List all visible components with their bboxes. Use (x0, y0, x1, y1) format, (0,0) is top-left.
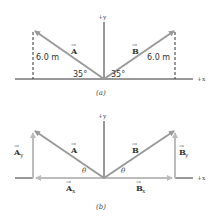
caption-a: (a) (96, 89, 106, 97)
svg-text:x: x (72, 187, 76, 194)
component-ax-label: → A x (65, 178, 76, 194)
x-axis-label-a: +x (197, 75, 206, 82)
vector-diagram: +y +x A → B → 6.0 m 6.0 m 35° 35° (a) +y… (0, 0, 218, 221)
svg-text:x: x (142, 187, 146, 194)
vector-b-overarrow: → (132, 41, 137, 48)
component-by-label: → B y (179, 142, 189, 159)
vector-a-overarrow: → (71, 41, 76, 48)
magnitude-a: 6.0 m (36, 53, 59, 62)
vector-a-arrow-b (35, 131, 104, 178)
panel-a: +y +x A → B → 6.0 m 6.0 m 35° 35° (a) (15, 13, 206, 97)
angle-theta-a: θ (82, 167, 87, 175)
y-axis-label-b: +y (98, 112, 107, 120)
y-axis-label-a: +y (98, 13, 107, 21)
caption-b: (b) (96, 203, 106, 211)
panel-b: +y +x A → B → → A y → B y → A x → B x (13, 112, 206, 211)
x-axis-label-b: +x (197, 174, 206, 181)
angle-a: 35° (73, 70, 87, 79)
svg-text:y: y (19, 151, 24, 159)
vector-b-overarrow-b: → (132, 140, 137, 147)
component-ay-label: → A y (13, 142, 24, 159)
component-bx-label: → B x (136, 178, 146, 194)
angle-b: 35° (111, 70, 125, 79)
vector-a-overarrow-b: → (71, 140, 76, 147)
vector-b-arrow-b (104, 131, 174, 178)
magnitude-b: 6.0 m (147, 53, 170, 62)
svg-text:y: y (184, 151, 189, 159)
angle-theta-b: θ (121, 167, 126, 175)
